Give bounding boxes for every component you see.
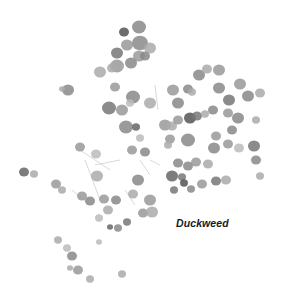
duckweed-frond: [73, 265, 83, 274]
duckweed-frond: [102, 102, 116, 115]
duckweed-frond: [192, 111, 202, 120]
debris-strand: [140, 160, 150, 175]
duckweed-frond: [187, 185, 195, 192]
duckweed-frond: [144, 194, 156, 205]
duckweed-frond: [111, 195, 121, 204]
duckweed-frond: [251, 155, 261, 164]
duckweed-frond: [136, 134, 144, 141]
duckweed-frond: [173, 158, 183, 167]
duckweed-frond: [180, 179, 188, 186]
duckweed-frond: [223, 139, 233, 148]
duckweed-frond: [211, 176, 221, 185]
duckweed-photo: [0, 0, 283, 296]
duckweed-frond: [85, 196, 95, 205]
duckweed-frond: [107, 224, 113, 230]
duckweed-frond: [59, 86, 65, 92]
duckweed-frond: [19, 167, 29, 176]
debris-strand: [150, 160, 160, 165]
duckweed-frond: [188, 88, 196, 95]
duckweed-frond: [213, 82, 225, 93]
duckweed-frond: [256, 172, 264, 179]
duckweed-frond: [132, 174, 144, 185]
duckweed-frond: [128, 189, 138, 198]
duckweed-frond: [94, 66, 106, 77]
duckweed-frond: [140, 147, 150, 156]
duckweed-frond: [164, 141, 172, 148]
duckweed-frond: [118, 270, 126, 277]
duckweed-frond: [211, 131, 221, 140]
duckweed-frond: [123, 218, 131, 225]
duckweed-frond: [202, 64, 212, 73]
duckweed-frond: [197, 179, 207, 188]
duckweed-frond: [110, 82, 120, 91]
duckweed-frond: [191, 157, 201, 166]
duckweed-frond: [144, 97, 156, 108]
duckweed-frond: [242, 90, 254, 101]
duckweed-frond: [114, 224, 122, 231]
debris-strand: [155, 85, 158, 110]
duckweed-frond: [63, 244, 71, 251]
duckweed-frond: [170, 186, 178, 193]
duckweed-frond: [146, 206, 158, 217]
duckweed-frond: [125, 57, 137, 68]
duckweed-frond: [67, 265, 73, 271]
duckweed-frond: [248, 140, 260, 151]
duckweed-frond: [111, 47, 123, 58]
duckweed-frond: [166, 170, 178, 181]
duckweed-frond: [223, 108, 233, 117]
duckweed-frond: [234, 143, 244, 152]
duckweed-frond: [208, 105, 218, 114]
duckweed-frond: [103, 205, 113, 214]
duckweed-frond: [213, 64, 225, 75]
duckweed-label: Duckweed: [176, 217, 229, 229]
duckweed-frond: [96, 239, 102, 245]
duckweed-frond: [232, 112, 244, 123]
duckweed-frond: [181, 134, 195, 147]
duckweed-frond: [172, 97, 184, 108]
duckweed-frond: [140, 51, 150, 60]
duckweed-frond: [127, 145, 137, 154]
duckweed-frond: [132, 123, 140, 130]
duckweed-frond: [252, 116, 260, 123]
duckweed-frond: [91, 170, 103, 181]
duckweed-frond: [119, 27, 129, 36]
duckweed-frond: [201, 110, 209, 117]
duckweed-frond: [86, 275, 94, 282]
duckweed-fronds: [19, 21, 265, 283]
duckweed-frond: [173, 115, 183, 124]
duckweed-frond: [126, 99, 134, 106]
duckweed-frond: [107, 63, 117, 72]
duckweed-frond: [58, 186, 66, 193]
duckweed-frond: [255, 88, 265, 97]
duckweed-frond: [167, 84, 179, 95]
duckweed-frond: [121, 39, 133, 50]
duckweed-frond: [99, 194, 109, 203]
duckweed-frond: [91, 149, 101, 158]
duckweed-frond: [221, 175, 231, 184]
duckweed-frond: [203, 159, 213, 168]
duckweed-frond: [208, 142, 220, 153]
duckweed-frond: [67, 251, 77, 260]
duckweed-frond: [95, 214, 103, 221]
duckweed-frond: [75, 142, 85, 151]
duckweed-frond: [132, 21, 146, 34]
duckweed-frond: [54, 236, 62, 243]
duckweed-frond: [227, 125, 237, 134]
duckweed-frond: [234, 78, 246, 89]
duckweed-frond: [30, 170, 38, 177]
duckweed-frond: [116, 104, 128, 115]
duckweed-frond: [119, 121, 133, 134]
duckweed-frond: [223, 94, 235, 105]
